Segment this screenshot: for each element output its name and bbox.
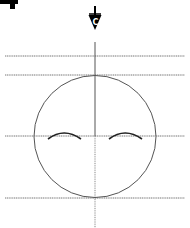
centerline-marker-icon: C	[89, 6, 102, 30]
right-eyebrow	[109, 133, 142, 139]
face-guide-diagram: C centerline	[0, 0, 190, 228]
centerline-symbol: C	[93, 18, 99, 27]
corner-step-glyph-icon	[0, 0, 18, 9]
